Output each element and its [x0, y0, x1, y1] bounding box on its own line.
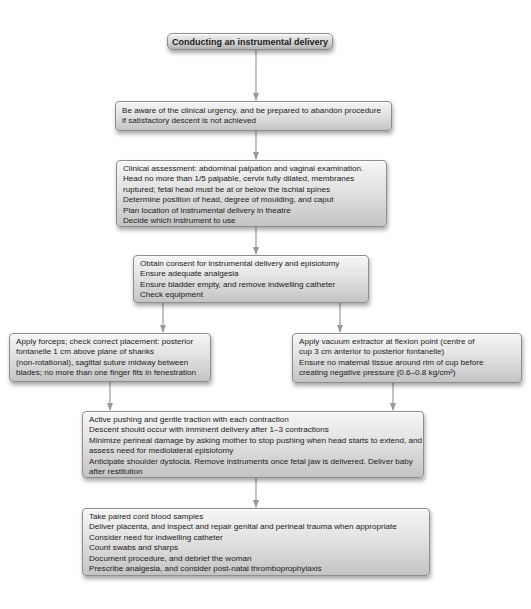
step-text-line: Apply vacuum extractor at flexion point …	[299, 337, 515, 347]
step-text-line: Head no more than 1/5 palpable, cervix f…	[123, 174, 380, 184]
step-text-line: Be aware of the clinical urgency, and be…	[122, 106, 385, 116]
step-text-line: Minimize perineal damage by asking mothe…	[89, 436, 417, 446]
step-text-line: Obtain consent for instrumental delivery…	[140, 259, 362, 269]
step-text-line: Consider need for indwelling catheter	[89, 533, 423, 543]
step-text-line: Ensure adequate analgesia	[140, 269, 362, 279]
step-text-line: Apply forceps; check correct placement: …	[16, 337, 204, 347]
step-text-line: Ensure no maternal tissue around rim of …	[299, 358, 515, 368]
step-awareness-box: Be aware of the clinical urgency, and be…	[115, 101, 392, 131]
step-text-line: Document procedure, and debrief the woma…	[89, 554, 423, 564]
step-text-line: Prescribe analgesia, and consider post-n…	[89, 564, 423, 574]
step-text-line: ruptured; fetal head must be at or below…	[123, 185, 380, 195]
step-text-line: assess need for mediolateral episiotomy	[89, 446, 417, 456]
step-clinical-assessment-box: Clinical assessment: abdominal palpation…	[116, 160, 387, 227]
step-text-line: creating negative pressure (0.6–0.8 kg/c…	[299, 368, 515, 378]
step-text-line: Plan location of instrumental delivery i…	[123, 206, 380, 216]
step-text-line: Descent should occur with imminent deliv…	[89, 425, 417, 435]
step-pushing-traction-box: Active pushing and gentle traction with …	[82, 411, 424, 478]
step-consent-box: Obtain consent for instrumental delivery…	[133, 255, 369, 303]
step-text-line: Deliver placenta, and inspect and repair…	[89, 522, 423, 532]
step-text-line: Count swabs and sharps	[89, 543, 423, 553]
step-text-line: Active pushing and gentle traction with …	[89, 415, 417, 425]
step-aftercare-box: Take paired cord blood samples Deliver p…	[82, 508, 430, 576]
step-text-line: (non-rotational), sagittal suture midway…	[16, 358, 204, 368]
step-text-line: Check equipment	[140, 290, 362, 300]
step-vacuum-box: Apply vacuum extractor at flexion point …	[292, 333, 522, 383]
step-text-line: Take paired cord blood samples	[89, 512, 423, 522]
step-text-line: Decide which instrument to use	[123, 216, 380, 226]
flowchart-title: Conducting an instrumental delivery	[172, 37, 328, 47]
step-text-line: if satisfactory descent is not achieved	[122, 116, 385, 126]
step-text-line: Determine position of head, degree of mo…	[123, 195, 380, 205]
step-text-line: blades; no more than one finger fits in …	[16, 368, 204, 378]
step-text-line: Ensure bladder empty, and remove indwell…	[140, 280, 362, 290]
step-text-line: Anticipate shoulder dystocia. Remove ins…	[89, 457, 417, 467]
flowchart-title-box: Conducting an instrumental delivery	[167, 33, 333, 50]
step-text-line: Clinical assessment: abdominal palpation…	[123, 164, 380, 174]
step-text-line: cup 3 cm anterior to posterior fontanell…	[299, 347, 515, 357]
step-text-line: after restitution	[89, 467, 417, 477]
step-forceps-box: Apply forceps; check correct placement: …	[9, 333, 211, 382]
step-text-line: fontanelle 1 cm above plane of shanks	[16, 347, 204, 357]
